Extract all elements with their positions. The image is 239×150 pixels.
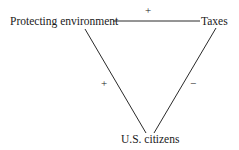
edge-env-citizens xyxy=(85,29,146,133)
sign-taxes-citizens: − xyxy=(190,78,196,89)
edge-taxes-citizens xyxy=(154,28,216,133)
node-protecting-environment: Protecting environment xyxy=(10,16,118,28)
sign-env-citizens: + xyxy=(101,78,107,89)
node-us-citizens: U.S. citizens xyxy=(121,134,179,146)
sign-env-taxes: + xyxy=(145,5,151,16)
node-taxes: Taxes xyxy=(201,16,228,28)
